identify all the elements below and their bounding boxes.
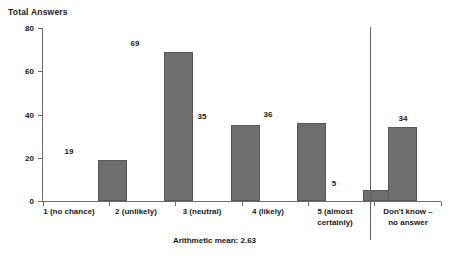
x-tick-mark-4	[308, 202, 309, 206]
y-tick-mark-0	[38, 201, 42, 202]
x-tick-mark-3	[242, 202, 243, 206]
y-tick-mark-40	[38, 115, 42, 116]
y-tick-label-0: 0	[0, 198, 34, 206]
y-tick-mark-20	[38, 158, 42, 159]
y-tick-mark-60	[38, 71, 42, 72]
x-category-label-5: 5 (almost certainly)	[298, 207, 372, 228]
x-tick-mark-2	[175, 202, 176, 206]
x-category-label-6: Don't know – no answer	[371, 207, 445, 228]
x-category-label-5-line2: certainly)	[298, 218, 372, 229]
y-tick-mark-80	[38, 28, 42, 29]
bar-dont-know-no-answer[interactable]	[388, 127, 417, 201]
x-tick-mark-6	[441, 202, 442, 206]
bar-2-unlikely[interactable]	[164, 52, 193, 201]
x-category-label-6-line2: no answer	[371, 218, 445, 229]
y-tick-label-80: 80	[0, 25, 34, 33]
x-category-label-3: 3 (neutral)	[165, 207, 239, 218]
y-tick-label-40: 40	[0, 112, 34, 120]
x-category-label-6-line1: Don't know –	[371, 207, 445, 218]
x-category-label-1-line1: 1 (no chance)	[32, 207, 106, 218]
y-tick-label-20: 20	[0, 155, 34, 163]
bar-1-no-chance[interactable]	[98, 160, 127, 201]
bar-value-label-3: 35	[182, 113, 222, 121]
x-category-label-5-line1: 5 (almost	[298, 207, 372, 218]
x-category-label-3-line1: 3 (neutral)	[165, 207, 239, 218]
bar-value-label-2: 69	[115, 40, 155, 48]
category-group-separator	[370, 27, 371, 240]
x-category-label-2: 2 (unlikely)	[99, 207, 173, 218]
x-category-label-1: 1 (no chance)	[32, 207, 106, 218]
chart-title: Total Answers	[8, 7, 68, 17]
bar-value-label-5: 5	[314, 180, 354, 188]
x-category-label-4-line1: 4 (likely)	[231, 207, 305, 218]
x-tick-mark-0	[43, 202, 44, 206]
y-tick-label-60: 60	[0, 68, 34, 76]
arithmetic-mean-note: Arithmetic mean: 2.63	[43, 236, 386, 245]
x-category-label-2-line1: 2 (unlikely)	[99, 207, 173, 218]
bar-value-label-6: 34	[383, 115, 423, 123]
bar-3-neutral[interactable]	[231, 125, 260, 201]
bar-value-label-1: 19	[49, 148, 89, 156]
bar-chart: Total Answers 0 20 40 60 80 19 69 35 36 …	[0, 0, 449, 256]
plot-area	[43, 28, 441, 201]
x-tick-mark-1	[109, 202, 110, 206]
x-tick-mark-5	[374, 202, 375, 206]
x-category-label-4: 4 (likely)	[231, 207, 305, 218]
bar-value-label-4: 36	[248, 111, 288, 119]
bar-4-likely[interactable]	[297, 123, 326, 201]
